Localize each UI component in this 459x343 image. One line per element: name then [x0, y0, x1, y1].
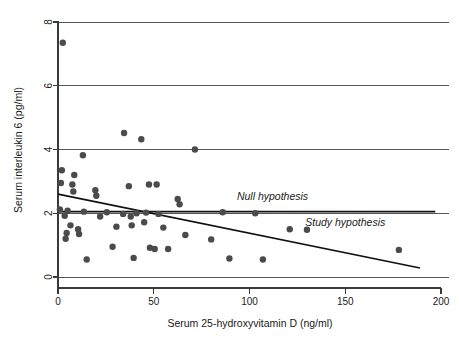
data-point — [226, 255, 232, 261]
y-tick-label-8: 8 — [43, 19, 54, 25]
x-axis-label: Serum 25-hydroxyvitamin D (ng/ml) — [167, 317, 332, 329]
data-point — [59, 167, 65, 173]
annotation-null-hypothesis: Null hypothesis — [237, 190, 309, 202]
data-point — [208, 236, 214, 242]
data-point — [192, 146, 198, 152]
data-point — [71, 172, 77, 178]
line-annotations-group: Null hypothesisStudy hypothesis — [237, 190, 386, 228]
y-tick-label-6: 6 — [43, 83, 54, 89]
y-tick-label-4: 4 — [43, 146, 54, 152]
data-point — [120, 211, 126, 217]
data-point — [69, 181, 75, 187]
data-point — [396, 247, 402, 253]
data-point — [165, 246, 171, 252]
data-point — [80, 152, 86, 158]
data-point — [70, 188, 76, 194]
x-tick-label-200: 200 — [433, 296, 450, 307]
data-point — [97, 213, 103, 219]
tick-marks-group — [53, 22, 441, 294]
data-point — [155, 211, 161, 217]
data-point — [141, 219, 147, 225]
data-point — [67, 222, 73, 228]
annotation-study-hypothesis: Study hypothesis — [305, 216, 386, 228]
data-point — [113, 223, 119, 229]
data-point — [61, 213, 67, 219]
data-point — [260, 256, 266, 262]
x-tick-label-150: 150 — [337, 296, 354, 307]
data-point — [152, 246, 158, 252]
data-point — [76, 231, 82, 237]
data-point — [133, 210, 139, 216]
plot-canvas: 02468050100150200 Null hypothesisStudy h… — [0, 0, 459, 343]
data-point — [219, 209, 225, 215]
data-point — [62, 236, 68, 242]
scatter-plot-figure: 02468050100150200 Null hypothesisStudy h… — [0, 0, 459, 343]
gridlines-group — [58, 22, 449, 277]
data-point — [60, 40, 66, 46]
data-point — [109, 244, 115, 250]
data-point — [130, 255, 136, 261]
data-point — [81, 208, 87, 214]
data-point — [84, 256, 90, 262]
x-tick-label-100: 100 — [241, 296, 258, 307]
y-axis-label: Serum interleukin 6 (pg/ml) — [12, 87, 24, 213]
data-point — [121, 130, 127, 136]
data-point — [93, 193, 99, 199]
tick-labels-group: 02468050100150200 — [43, 19, 450, 307]
data-point — [57, 206, 63, 212]
data-point — [252, 210, 258, 216]
data-point — [63, 230, 69, 236]
data-point — [287, 226, 293, 232]
data-point — [176, 201, 182, 207]
data-point — [146, 181, 152, 187]
trend-lines-group — [58, 194, 435, 268]
x-tick-label-0: 0 — [55, 296, 61, 307]
data-point — [143, 209, 149, 215]
data-point — [182, 232, 188, 238]
data-point — [92, 187, 98, 193]
data-point — [128, 213, 134, 219]
data-point — [126, 183, 132, 189]
y-tick-label-2: 2 — [43, 210, 54, 216]
x-tick-label-50: 50 — [148, 296, 160, 307]
trend-line-study-hypothesis — [58, 194, 420, 268]
data-point — [58, 180, 64, 186]
y-tick-label-0: 0 — [43, 274, 54, 280]
data-point — [153, 181, 159, 187]
data-point — [138, 136, 144, 142]
data-point — [104, 209, 110, 215]
data-point — [129, 222, 135, 228]
data-point — [160, 224, 166, 230]
